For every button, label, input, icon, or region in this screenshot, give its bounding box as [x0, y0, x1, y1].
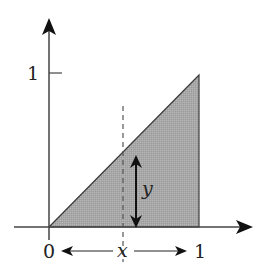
- y-axis: [42, 18, 62, 240]
- x-origin-label: 0: [43, 240, 55, 262]
- x-end-label: 1: [194, 240, 206, 262]
- y-variable-label: y: [141, 177, 153, 199]
- shaded-triangle-region: [49, 75, 199, 227]
- diagram-canvas: 1 0 1 x y: [0, 0, 272, 272]
- x-variable-label: x: [117, 239, 128, 261]
- y-tick-label-1: 1: [27, 62, 39, 84]
